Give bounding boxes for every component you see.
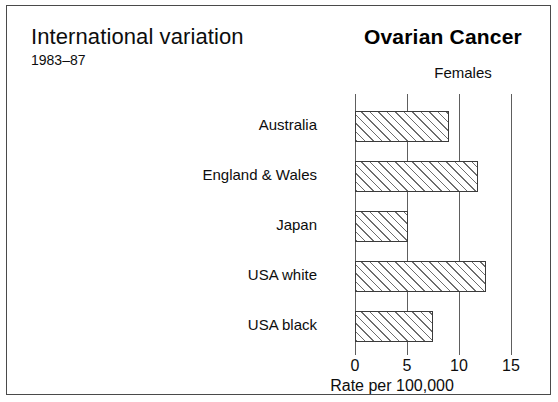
category-label: Japan xyxy=(37,216,317,234)
figure-frame: International variation 1983–87 Ovarian … xyxy=(6,5,551,395)
gridline-15 xyxy=(511,94,512,348)
category-label: USA white xyxy=(37,266,317,284)
chart-title: Ovarian Cancer xyxy=(364,24,522,49)
tick-label-0: 0 xyxy=(335,356,375,375)
sex-label: Females xyxy=(403,64,523,81)
bar xyxy=(355,111,449,142)
tick-mark-5 xyxy=(407,348,408,355)
title-block: International variation 1983–87 xyxy=(31,24,331,69)
x-axis-title: Rate per 100,000 xyxy=(267,376,517,395)
x-axis-tick-labels: 051015 xyxy=(355,356,525,376)
tick-label-15: 15 xyxy=(491,356,531,375)
category-label: USA black xyxy=(37,316,317,334)
tick-label-5: 5 xyxy=(387,356,427,375)
tick-mark-0 xyxy=(355,348,356,355)
bar xyxy=(355,311,433,342)
bar xyxy=(355,211,408,242)
subtitle-years: 1983–87 xyxy=(31,52,331,69)
page-title: International variation xyxy=(31,24,331,50)
tick-mark-10 xyxy=(459,348,460,355)
figure-root: International variation 1983–87 Ovarian … xyxy=(0,0,558,402)
category-label: Australia xyxy=(37,116,317,134)
gridline-10 xyxy=(459,94,460,348)
plot-area xyxy=(355,94,515,348)
bar xyxy=(355,261,486,292)
tick-mark-15 xyxy=(511,348,512,355)
bar xyxy=(355,161,478,192)
category-label: England & Wales xyxy=(37,166,317,184)
tick-label-10: 10 xyxy=(439,356,479,375)
